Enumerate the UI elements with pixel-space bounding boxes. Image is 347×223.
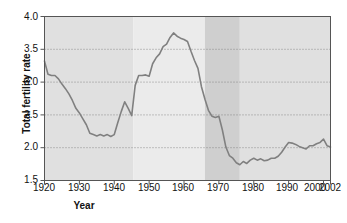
y-tick-label: 3.0 <box>12 77 38 87</box>
band-post-bust <box>240 17 331 181</box>
x-tick-label: 1930 <box>62 183 96 193</box>
baby-boom-line2: boom <box>145 96 189 108</box>
y-tick-label: 2.5 <box>12 110 38 120</box>
x-tick-label: 1980 <box>236 183 270 193</box>
y-tick-label: 3.5 <box>12 44 38 54</box>
baby-bust-annotation: Baby bust <box>196 84 240 108</box>
fertility-rate-chart: Total fertility rate Year 4.0 3.5 3.0 2.… <box>0 0 347 223</box>
baby-boom-line1: Baby <box>145 84 189 96</box>
x-tick-label: 1960 <box>166 183 200 193</box>
band-pre-boom <box>45 17 134 181</box>
x-tick-label: 2002 <box>313 183 347 193</box>
x-axis-title: Year <box>44 200 124 211</box>
y-tick-label: 2.0 <box>12 142 38 152</box>
x-tick-label: 1950 <box>132 183 166 193</box>
x-tick-label: 1920 <box>27 183 61 193</box>
x-tick-label: 1940 <box>97 183 131 193</box>
baby-bust-line1: Baby <box>196 84 240 96</box>
x-tick-label: 1970 <box>201 183 235 193</box>
baby-boom-annotation: Baby boom <box>145 84 189 108</box>
baby-bust-line2: bust <box>196 96 240 108</box>
y-tick-label: 4.0 <box>12 12 38 22</box>
